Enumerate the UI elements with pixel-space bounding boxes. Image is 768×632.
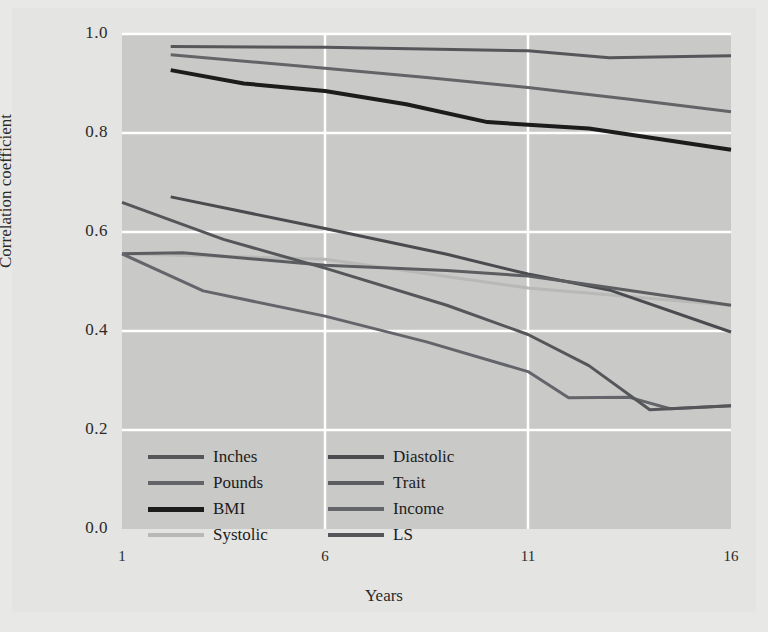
legend-swatch-icon xyxy=(328,481,384,485)
y-axis-label: Correlation coefficient xyxy=(0,114,16,268)
y-tick-label: 0.4 xyxy=(40,320,108,340)
y-tick-label: 0.6 xyxy=(40,221,108,241)
series-line-bmi xyxy=(171,70,731,150)
y-tick-label: 1.0 xyxy=(40,23,108,43)
legend-swatch-icon xyxy=(328,533,384,537)
series-line-income xyxy=(122,254,731,409)
legend-item-diastolic: Diastolic xyxy=(328,444,454,470)
legend-swatch-icon xyxy=(148,455,204,459)
legend-item-ls: LS xyxy=(328,522,454,548)
legend-item-trait: Trait xyxy=(328,470,454,496)
x-tick-label: 1 xyxy=(102,548,142,565)
legend-swatch-icon xyxy=(328,507,384,511)
y-tick-label: 0.8 xyxy=(40,122,108,142)
legend-item-systolic: Systolic xyxy=(148,522,268,548)
legend-item-pounds: Pounds xyxy=(148,470,268,496)
chart-figure: InchesPoundsBMISystolic DiastolicTraitIn… xyxy=(0,0,768,632)
legend-item-income: Income xyxy=(328,496,454,522)
y-tick-label: 0.2 xyxy=(40,419,108,439)
legend-label: Diastolic xyxy=(393,447,454,467)
x-tick-label: 6 xyxy=(305,548,345,565)
plot-wrapper: InchesPoundsBMISystolic DiastolicTraitIn… xyxy=(122,34,731,529)
legend-swatch-icon xyxy=(148,507,204,512)
x-tick-label: 11 xyxy=(508,548,548,565)
legend-column-right: DiastolicTraitIncomeLS xyxy=(328,444,454,548)
legend-label: Trait xyxy=(393,473,425,493)
series-line-ls xyxy=(122,202,731,409)
legend-item-bmi: BMI xyxy=(148,496,268,522)
legend-column-left: InchesPoundsBMISystolic xyxy=(148,444,268,548)
legend-label: Income xyxy=(393,499,444,519)
legend-label: Systolic xyxy=(213,525,268,545)
legend-label: LS xyxy=(393,525,413,545)
legend-label: Pounds xyxy=(213,473,263,493)
y-tick-label: 0.0 xyxy=(40,518,108,538)
legend-item-inches: Inches xyxy=(148,444,268,470)
legend-label: Inches xyxy=(213,447,257,467)
legend-swatch-icon xyxy=(148,533,204,537)
legend-swatch-icon xyxy=(148,481,204,485)
series-line-diastolic xyxy=(171,197,731,332)
x-axis-label: Years xyxy=(0,586,768,606)
x-tick-label: 16 xyxy=(711,548,751,565)
legend-swatch-icon xyxy=(328,455,384,459)
legend-label: BMI xyxy=(213,499,245,519)
series-line-inches xyxy=(171,46,731,57)
